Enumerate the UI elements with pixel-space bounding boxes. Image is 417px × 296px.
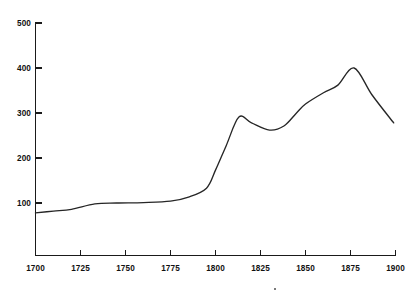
x-tick-label-1850: 1850	[296, 264, 315, 273]
y-axis-ticks	[36, 23, 42, 203]
x-tick-label-1900: 1900	[386, 264, 405, 273]
x-tick-label-1750: 1750	[116, 264, 135, 273]
x-tick-label-1825: 1825	[251, 264, 270, 273]
y-tick-label-100: 100	[17, 199, 31, 208]
y-tick-label-500: 500	[17, 19, 31, 28]
y-tick-label-300: 300	[17, 109, 31, 118]
y-axis-tick-labels: 100200300400500	[17, 19, 31, 208]
stray-speck	[274, 288, 276, 290]
x-tick-label-1800: 1800	[206, 264, 225, 273]
y-tick-label-400: 400	[17, 64, 31, 73]
y-tick-label-200: 200	[17, 154, 31, 163]
x-tick-label-1725: 1725	[71, 264, 90, 273]
x-axis-ticks	[36, 250, 396, 256]
x-tick-label-1775: 1775	[161, 264, 180, 273]
x-axis-tick-labels: 170017251750177518001825185018751900	[26, 264, 405, 273]
line-chart-plot: 100200300400500 170017251750177518001825…	[0, 0, 417, 296]
x-tick-label-1875: 1875	[341, 264, 360, 273]
data-series-line	[36, 68, 394, 213]
x-tick-label-1700: 1700	[26, 264, 45, 273]
chart-container: 100200300400500 170017251750177518001825…	[0, 0, 417, 296]
